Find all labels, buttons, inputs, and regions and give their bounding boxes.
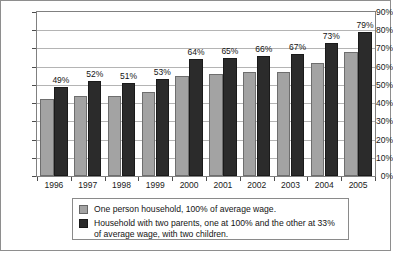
bar-value-label: 64% xyxy=(182,48,210,57)
x-axis-tick xyxy=(37,177,38,181)
y-axis-tick xyxy=(32,85,36,86)
bar-1999-series1 xyxy=(142,92,156,176)
bar-2001-series1 xyxy=(209,74,223,176)
bar-2005-series2 xyxy=(358,32,372,176)
legend-swatch-dark xyxy=(79,219,88,228)
bar-1998-series2 xyxy=(122,83,136,176)
bar-2005-series1 xyxy=(344,52,358,176)
x-axis-tick xyxy=(375,177,376,181)
y-axis-tick xyxy=(32,48,36,49)
x-axis-tick xyxy=(341,177,342,181)
bar-2004-series1 xyxy=(311,63,325,176)
bar-value-label: 79% xyxy=(351,21,379,30)
bar-value-label: 73% xyxy=(317,32,345,41)
bar-1997-series2 xyxy=(88,81,102,176)
bar-value-label: 49% xyxy=(47,76,75,85)
legend-label: Household with two parents, one at 100% … xyxy=(94,218,344,239)
y-axis-tick xyxy=(32,103,36,104)
y-axis-tick xyxy=(32,12,36,13)
y-axis-tick xyxy=(32,140,36,141)
bar-2003-series1 xyxy=(277,72,291,176)
bar-value-label: 51% xyxy=(115,72,143,81)
x-axis-tick xyxy=(138,177,139,181)
y-axis-tick xyxy=(32,30,36,31)
chart-legend: One person household, 100% of average wa… xyxy=(72,198,349,240)
y-axis-tick xyxy=(32,158,36,159)
x-axis-tick xyxy=(105,177,106,181)
bar-1996-series2 xyxy=(54,87,68,176)
bar-value-label: 67% xyxy=(284,43,312,52)
legend-label: One person household, 100% of average wa… xyxy=(94,204,276,215)
legend-swatch-light xyxy=(79,205,88,214)
bar-1998-series1 xyxy=(108,96,122,176)
bar-1999-series2 xyxy=(156,79,170,176)
x-axis-tick xyxy=(172,177,173,181)
bar-2002-series2 xyxy=(257,56,271,176)
bar-2003-series2 xyxy=(291,54,305,176)
bar-value-label: 66% xyxy=(250,45,278,54)
x-axis-tick xyxy=(71,177,72,181)
bar-2000-series2 xyxy=(189,59,203,176)
bar-2001-series2 xyxy=(223,58,237,176)
bar-2002-series1 xyxy=(243,72,257,176)
y-axis-tick xyxy=(32,176,36,177)
bar-1996-series1 xyxy=(40,99,54,176)
bar-chart-figure: 90%80%70%60%50%40%30%20%10%0% 1996199719… xyxy=(0,0,393,253)
x-axis-tick xyxy=(240,177,241,181)
y-axis-tick xyxy=(32,67,36,68)
bar-1997-series1 xyxy=(74,96,88,176)
legend-item-2: Household with two parents, one at 100% … xyxy=(79,218,344,239)
y-axis-tick xyxy=(32,121,36,122)
bar-2004-series2 xyxy=(325,43,339,176)
legend-item-1: One person household, 100% of average wa… xyxy=(79,204,344,215)
bar-value-label: 65% xyxy=(216,47,244,56)
x-axis-tick xyxy=(307,177,308,181)
bar-value-label: 52% xyxy=(81,70,109,79)
x-axis-tick xyxy=(206,177,207,181)
bar-2000-series1 xyxy=(175,76,189,176)
x-axis-tick xyxy=(274,177,275,181)
x-axis-label-2005: 2005 xyxy=(338,181,378,190)
bar-value-label: 53% xyxy=(148,68,176,77)
